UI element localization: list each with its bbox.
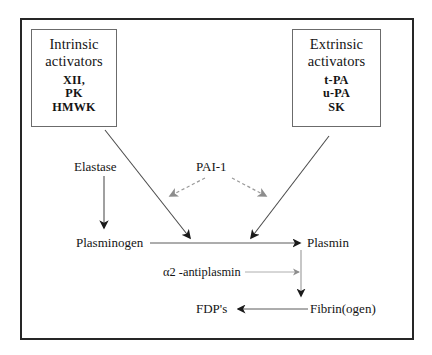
intrinsic-item-1: PK bbox=[32, 87, 116, 100]
node-label-elastase: Elastase bbox=[74, 160, 117, 173]
intrinsic-activators-box: Intrinsic activators XII, PK HMWK bbox=[31, 29, 117, 127]
node-label-pai1: PAI-1 bbox=[196, 160, 227, 173]
extrinsic-title-line1: Extrinsic bbox=[310, 36, 363, 52]
fibrinolysis-diagram: Intrinsic activators XII, PK HMWK Extrin… bbox=[0, 0, 432, 355]
node-label-fdps: FDP's bbox=[196, 302, 227, 315]
intrinsic-title-line2: activators bbox=[32, 53, 116, 70]
intrinsic-box-title: Intrinsic activators bbox=[32, 36, 116, 69]
extrinsic-box-title: Extrinsic activators bbox=[293, 36, 380, 69]
extrinsic-title-line2: activators bbox=[293, 53, 380, 70]
extrinsic-item-0: t-PA bbox=[293, 74, 380, 87]
extrinsic-item-1: u-PA bbox=[293, 87, 380, 100]
intrinsic-item-0: XII, bbox=[32, 74, 116, 87]
node-label-plasminogen: Plasminogen bbox=[76, 236, 143, 249]
node-label-fibrinogen: Fibrin(ogen) bbox=[310, 302, 376, 315]
extrinsic-item-2: SK bbox=[293, 101, 380, 114]
node-label-alpha2-antiplasmin: α2 -antiplasmin bbox=[163, 266, 241, 279]
intrinsic-title-line1: Intrinsic bbox=[49, 36, 98, 52]
intrinsic-box-items: XII, PK HMWK bbox=[32, 74, 116, 114]
extrinsic-activators-box: Extrinsic activators t-PA u-PA SK bbox=[292, 29, 381, 127]
node-label-plasmin: Plasmin bbox=[307, 236, 349, 249]
intrinsic-item-2: HMWK bbox=[32, 101, 116, 114]
extrinsic-box-items: t-PA u-PA SK bbox=[293, 74, 380, 114]
